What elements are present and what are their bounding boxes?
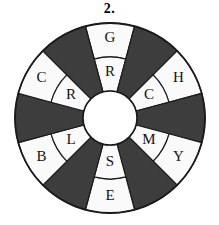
wheel-inner-letter-8: L [66, 131, 75, 147]
wheel-outer-letter-2: H [173, 69, 184, 85]
figure-container: 2. GRHCYMESBLCR [0, 0, 219, 225]
wheel-hub-circle [83, 91, 137, 145]
wheel-inner-letter-10: R [66, 86, 76, 102]
wheel-inner-letter-2: C [144, 86, 154, 102]
wheel-hub-group [83, 91, 137, 145]
wheel-outer-letter-10: C [37, 69, 47, 85]
wheel-inner-letter-6: S [106, 153, 114, 169]
wheel-inner-letter-0: R [105, 63, 115, 79]
wheel-outer-letter-0: G [105, 29, 116, 45]
wheel-outer-letter-6: E [105, 187, 114, 203]
wheel-outer-letter-8: B [37, 148, 47, 164]
color-wheel-svg: GRHCYMESBLCR [0, 0, 219, 225]
color-wheel-diagram: GRHCYMESBLCR [0, 0, 219, 225]
wheel-outer-letter-4: Y [173, 148, 184, 164]
wheel-inner-letter-4: M [142, 131, 155, 147]
